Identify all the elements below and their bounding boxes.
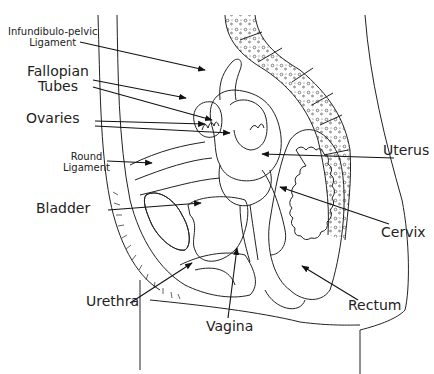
label-round-line1: Round: [63, 151, 110, 162]
label-infundibulo-line1: Infundibulo-pelvic: [8, 26, 97, 37]
label-round-line2: Ligament: [63, 162, 110, 173]
arrow-vagina: [228, 248, 237, 318]
arrow-round-ligament: [107, 161, 152, 163]
label-fallopian-line2: Tubes: [27, 79, 89, 94]
label-rectum: Rectum: [348, 298, 401, 313]
label-vagina: Vagina: [206, 319, 253, 334]
label-round-ligament: Round Ligament: [63, 151, 110, 173]
uterus-drawing: [194, 59, 286, 262]
body-outline-back: [360, 15, 408, 330]
arrow-ovaries-1: [95, 121, 205, 124]
label-uterus: Uterus: [383, 143, 429, 158]
label-urethra: Urethra: [86, 294, 139, 309]
anatomy-diagram: Infundibulo-pelvic Ligament Fallopian Tu…: [0, 0, 434, 374]
label-infundibulo-line2: Ligament: [8, 37, 97, 48]
label-ovaries: Ovaries: [26, 111, 79, 126]
arrow-ovaries-2: [95, 126, 230, 133]
label-bladder: Bladder: [36, 201, 90, 216]
arrow-rectum: [302, 266, 358, 300]
label-cervix: Cervix: [381, 225, 426, 240]
label-infundibulo-pelvic-ligament: Infundibulo-pelvic Ligament: [8, 26, 97, 48]
label-fallopian-line1: Fallopian: [27, 64, 89, 79]
arrow-bladder: [108, 203, 201, 210]
label-fallopian-tubes: Fallopian Tubes: [27, 64, 89, 95]
arrow-fallopian-1: [93, 80, 186, 98]
